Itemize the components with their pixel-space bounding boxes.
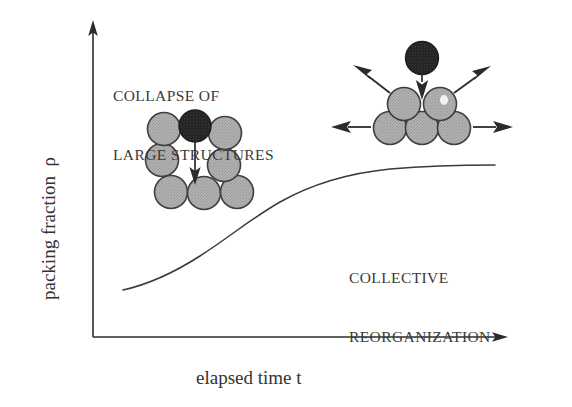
- grey-grain: [388, 88, 421, 121]
- y-axis-label: packing fraction ρ: [38, 157, 60, 300]
- annotation-collective-reorganization: COLLECTIVE REORGANIZATION: [349, 228, 491, 387]
- reorganization-arrow-left: [331, 121, 371, 133]
- grain-highlight: [440, 95, 448, 105]
- reorganization-arrow-up-right: [454, 66, 491, 93]
- schematic-compaction-figure: COLLAPSE OF LARGE STRUCTURES COLLECTIVE …: [0, 0, 572, 407]
- annotation-collapse-of-large-structures: COLLAPSE OF LARGE STRUCTURES: [113, 46, 274, 205]
- reorganization-arrow-up-left: [353, 65, 390, 93]
- annotation-collapse-line1: COLLAPSE OF: [113, 86, 274, 106]
- reorganization-arrow-right: [473, 121, 513, 133]
- annotation-collapse-line2: LARGE STRUCTURES: [113, 145, 274, 165]
- annotation-collective-line2: REORGANIZATION: [349, 327, 491, 347]
- x-axis-label: elapsed time t: [196, 367, 302, 389]
- grey-grain: [424, 88, 457, 121]
- collective-reorganization-cluster: [331, 42, 513, 145]
- annotation-collective-line1: COLLECTIVE: [349, 268, 491, 288]
